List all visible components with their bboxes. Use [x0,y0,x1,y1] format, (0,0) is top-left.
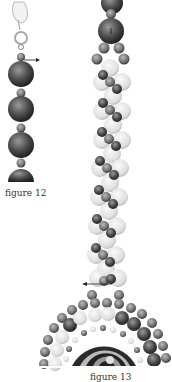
lobster-clasp-icon [12,2,27,50]
bezel-cabochon [39,290,172,371]
figure-13-caption: figure 13 [90,372,132,382]
figure-12 [8,2,40,182]
arrow-left-icon [82,282,87,286]
figure-12-caption: figure 12 [5,188,47,198]
arrow-right-icon [36,58,40,62]
rope-unit [93,59,131,105]
figure-13 [39,0,172,371]
